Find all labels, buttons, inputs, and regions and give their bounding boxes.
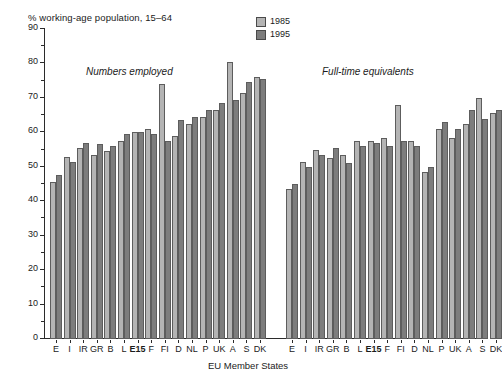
bar-pair: [50, 28, 62, 339]
x-axis-title: EU Member States: [0, 360, 496, 371]
bars-layer: [44, 28, 479, 339]
x-axis-label-fi: FI: [397, 344, 405, 354]
x-axis-tick: [360, 340, 361, 343]
bar-1995: [70, 162, 76, 339]
bar-1995: [110, 146, 116, 339]
bar-1995: [387, 146, 393, 339]
x-axis-tick: [124, 340, 125, 343]
x-axis-tick: [401, 340, 402, 343]
x-axis-tick: [292, 340, 293, 343]
y-axis-tick-label: 70: [4, 91, 38, 101]
x-axis-tick: [219, 340, 220, 343]
bar-pair: [436, 28, 448, 339]
x-axis-tick: [151, 340, 152, 343]
y-axis-tick-label: 40: [4, 194, 38, 204]
x-axis-label-uk: UK: [449, 344, 462, 354]
y-axis-minor-tick: [41, 217, 45, 218]
y-axis-minor-tick: [41, 114, 45, 115]
axis-unit-caption: % working-age population, 15–64: [28, 12, 172, 23]
bar-pair: [132, 28, 144, 339]
bar-pair: [227, 28, 239, 339]
bar-1995: [374, 143, 380, 339]
bar-pair: [300, 28, 312, 339]
bar-pair: [449, 28, 461, 339]
y-axis-minor-tick: [41, 45, 45, 46]
x-axis-tick: [319, 340, 320, 343]
bar-1995: [97, 144, 103, 339]
x-axis-tick: [83, 340, 84, 343]
bar-pair: [408, 28, 420, 339]
x-axis-tick: [56, 340, 57, 343]
x-axis-tick: [442, 340, 443, 343]
x-axis-label-b: B: [107, 344, 113, 354]
y-axis-minor-tick: [41, 149, 45, 150]
bar-1995: [206, 110, 212, 339]
bar-1995: [319, 155, 325, 339]
bar-pair: [340, 28, 352, 339]
y-axis-labels: 0102030405060708090: [0, 0, 38, 379]
bar-1995: [246, 82, 252, 339]
bar-pair: [91, 28, 103, 339]
x-axis-label-i: I: [304, 344, 307, 354]
x-axis-label-d: D: [175, 344, 182, 354]
y-axis-tick-label: 30: [4, 229, 38, 239]
bar-1995: [124, 134, 130, 339]
bar-pair: [463, 28, 475, 339]
y-axis-tick-label: 80: [4, 56, 38, 66]
bar-pair: [354, 28, 366, 339]
x-axis-label-p: P: [203, 344, 209, 354]
x-axis-label-f: F: [384, 344, 390, 354]
bar-pair: [200, 28, 212, 339]
y-axis-minor-tick: [41, 321, 45, 322]
bar-pair: [368, 28, 380, 339]
x-axis-label-i: I: [68, 344, 71, 354]
x-axis-tick: [374, 340, 375, 343]
x-axis-label-s: S: [243, 344, 249, 354]
y-axis-tick: [40, 269, 45, 270]
x-axis-label-dk: DK: [254, 344, 267, 354]
legend-item-1985: 1985: [256, 16, 290, 27]
y-axis-tick-label: 50: [4, 160, 38, 170]
x-axis-label-a: A: [466, 344, 472, 354]
bar-1995: [496, 110, 502, 339]
x-axis-label-dk: DK: [490, 344, 502, 354]
bar-1995: [333, 148, 339, 339]
bar-pair: [476, 28, 488, 339]
y-axis-minor-tick: [41, 80, 45, 81]
x-axis-label-e: E: [53, 344, 59, 354]
x-axis-tick: [482, 340, 483, 343]
bar-1995: [428, 167, 434, 339]
x-axis-label-a: A: [230, 344, 236, 354]
bar-pair: [77, 28, 89, 339]
x-axis-label-gr: GR: [90, 344, 104, 354]
x-axis-tick: [469, 340, 470, 343]
bar-pair: [118, 28, 130, 339]
x-axis-tick: [496, 340, 497, 343]
x-axis-tick: [428, 340, 429, 343]
x-axis-label-e15: E15: [366, 344, 382, 354]
bar-pair: [240, 28, 252, 339]
bar-pair: [327, 28, 339, 339]
y-axis-tick: [40, 200, 45, 201]
x-axis-tick: [165, 340, 166, 343]
y-axis-tick-label: 60: [4, 125, 38, 135]
bar-1995: [442, 122, 448, 339]
x-axis-label-nl: NL: [422, 344, 434, 354]
bar-1995: [401, 141, 407, 339]
bar-pair: [395, 28, 407, 339]
bar-pair: [64, 28, 76, 339]
x-axis-tick: [178, 340, 179, 343]
x-axis-label-ir: IR: [315, 344, 324, 354]
y-axis-tick-label: 90: [4, 22, 38, 32]
bar-1995: [233, 100, 239, 339]
y-axis-tick-label: 0: [4, 332, 38, 342]
x-axis-label-gr: GR: [326, 344, 340, 354]
bar-pair: [172, 28, 184, 339]
x-axis-tick: [110, 340, 111, 343]
bar-1995: [56, 175, 62, 339]
bar-pair: [104, 28, 116, 339]
x-axis-label-b: B: [343, 344, 349, 354]
x-axis-tick: [233, 340, 234, 343]
x-axis-tick: [414, 340, 415, 343]
